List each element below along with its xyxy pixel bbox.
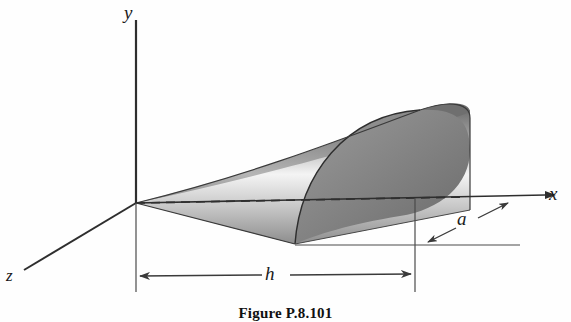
dimension-h-right-arrow <box>290 274 411 275</box>
z-axis <box>24 203 136 270</box>
dimension-h <box>140 274 411 276</box>
technical-drawing-svg <box>0 0 571 322</box>
figure-container: y x z h a Figure P.8.101 <box>0 0 571 322</box>
figure-caption: Figure P.8.101 <box>0 305 571 322</box>
axis-label-x: x <box>549 183 557 205</box>
dimension-a-lower-arrow <box>428 228 456 242</box>
axis-label-z: z <box>6 266 13 286</box>
dimension-label-a: a <box>457 208 467 230</box>
half-paraboloid-solid <box>136 103 470 244</box>
dimension-h-left-arrow <box>140 275 262 276</box>
axis-label-y: y <box>124 2 132 24</box>
dimension-label-h: h <box>265 263 275 285</box>
dimension-a-upper-arrow <box>478 203 508 218</box>
